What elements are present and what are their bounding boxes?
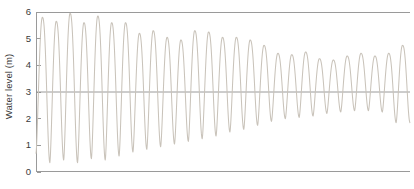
y-axis-label-text: Water level (m) [4,53,15,119]
plot-area [36,12,410,172]
y-tick-label-2: 2 [26,114,31,124]
y-axis-label: Water level (m) [0,0,18,172]
water-level-series-line [36,13,410,162]
y-tick-label-5: 5 [26,34,31,44]
y-axis-tick-labels: 0 1 2 3 4 5 6 [18,0,34,189]
y-tick-label-0: 0 [26,167,31,177]
y-tick-label-6: 6 [26,7,31,17]
y-tick-label-3: 3 [26,87,31,97]
y-tick-label-1: 1 [26,141,31,151]
y-tick-label-4: 4 [26,61,31,71]
plot-svg [36,12,410,172]
water-level-chart-figure: Water level (m) 0 1 2 3 4 5 6 [0,0,414,189]
